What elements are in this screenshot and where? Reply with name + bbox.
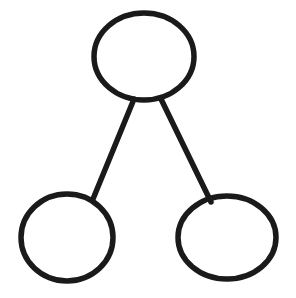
edge-top-to-bottom-left[interactable] xyxy=(93,99,134,199)
top-node[interactable] xyxy=(94,13,194,100)
node-group xyxy=(21,13,276,281)
diagram-svg xyxy=(0,0,296,298)
edge-group xyxy=(93,99,211,202)
bottom-right-node[interactable] xyxy=(178,196,276,279)
diagram-canvas xyxy=(0,0,296,298)
edge-top-to-bottom-right[interactable] xyxy=(161,99,211,202)
bottom-left-node[interactable] xyxy=(21,194,113,281)
